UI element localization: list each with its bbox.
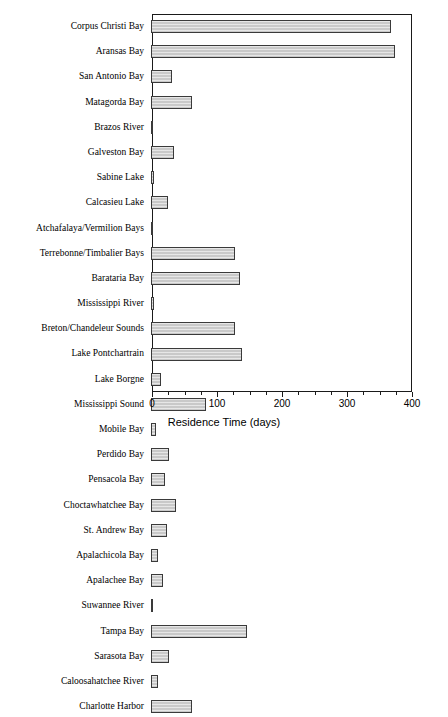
category-label: St. Andrew Bay [0,518,148,543]
axis-minor-tick [396,392,397,395]
category-label: Galveston Bay [0,140,148,165]
bar-row [152,644,412,669]
category-label: Brazos River [0,115,148,140]
bar [151,297,154,310]
bar-row [152,518,412,543]
bar-row [152,140,412,165]
category-label: Lake Borgne [0,367,148,392]
bar [151,700,192,713]
bar [151,675,158,688]
category-label: Apalachicola Bay [0,543,148,568]
bar-row [152,64,412,89]
bar-row [152,493,412,518]
bar [151,448,169,461]
bar-row [152,367,412,392]
category-label: Sarasota Bay [0,644,148,669]
axis-minor-tick [250,392,251,395]
category-label: Lake Pontchartrain [0,341,148,366]
bar-row [152,14,412,39]
bar-row [152,341,412,366]
category-label: Breton/Chandeleur Sounds [0,316,148,341]
axis-minor-tick [233,392,234,395]
bar [151,625,247,638]
axis-minor-tick [201,392,202,395]
bar [151,20,391,33]
bar [151,272,240,285]
axis-minor-tick [363,392,364,395]
bar-row [152,316,412,341]
bar-row [152,543,412,568]
category-label: Matagorda Bay [0,90,148,115]
category-axis-labels: Corpus Christi BayAransas BaySan Antonio… [0,14,148,392]
category-label: Suwannee River [0,593,148,618]
category-label: Mississippi Sound [0,392,148,417]
axis-major-tick [217,392,218,397]
bar-row [152,90,412,115]
bar-row [152,593,412,618]
bar [151,196,168,209]
bar [151,348,242,361]
category-label: Charlotte Harbor [0,694,148,717]
bar [151,473,165,486]
bar [151,322,235,335]
bar-row [152,190,412,215]
bar [151,171,154,184]
bar-row [152,694,412,717]
axis-minor-tick [168,392,169,395]
bar [151,222,153,235]
axis-tick-label: 200 [274,398,291,409]
bar-row [152,669,412,694]
bar-row [152,442,412,467]
bar-row [152,165,412,190]
bar-row [152,216,412,241]
bar-row [152,39,412,64]
axis-minor-tick [315,392,316,395]
axis-tick-label: 0 [149,398,155,409]
category-label: Tampa Bay [0,619,148,644]
bar [151,599,153,612]
axis-major-tick [282,392,283,397]
bar [151,574,163,587]
category-label: Choctawhatchee Bay [0,493,148,518]
category-label: Sabine Lake [0,165,148,190]
bar-row [152,619,412,644]
axis-major-tick [412,392,413,397]
bar-row [152,568,412,593]
axis-major-tick [152,392,153,397]
axis-minor-tick [331,392,332,395]
value-axis: 0100200300400 [152,392,413,412]
bar-row [152,467,412,492]
bar [151,373,161,386]
bar [151,247,235,260]
axis-minor-tick [185,392,186,395]
axis-tick-label: 300 [339,398,356,409]
category-label: San Antonio Bay [0,64,148,89]
bar [151,96,192,109]
bar-row [152,241,412,266]
bar [151,549,158,562]
bar-row [152,266,412,291]
bar-row [152,291,412,316]
category-label: Atchafalaya/Vermilion Bays [0,216,148,241]
axis-tick-label: 100 [209,398,226,409]
bar [151,121,153,134]
bar [151,524,167,537]
bar [151,45,395,58]
category-label: Aransas Bay [0,39,148,64]
category-label: Terrebonne/Timbalier Bays [0,241,148,266]
bar-row [152,115,412,140]
category-label: Calcasieu Lake [0,190,148,215]
category-label: Perdido Bay [0,442,148,467]
category-label: Barataria Bay [0,266,148,291]
bar [151,146,174,159]
axis-major-tick [347,392,348,397]
axis-minor-tick [266,392,267,395]
x-axis-title: Residence Time (days) [0,416,448,428]
category-label: Caloosahatchee River [0,669,148,694]
bar [151,70,172,83]
category-label: Corpus Christi Bay [0,14,148,39]
bar-series [152,14,412,392]
axis-tick-label: 400 [404,398,421,409]
bar [151,499,176,512]
